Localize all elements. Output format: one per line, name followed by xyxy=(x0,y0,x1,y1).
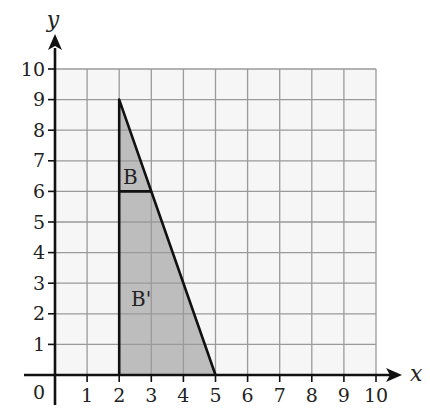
y-tick-label: 1 xyxy=(33,333,45,355)
y-tick-label: 4 xyxy=(33,241,45,263)
y-tick-label: 10 xyxy=(21,58,45,80)
y-tick-label: 2 xyxy=(33,302,45,324)
x-tick-label: 2 xyxy=(113,384,125,406)
x-tick-label: 6 xyxy=(242,384,254,406)
x-axis-label: x xyxy=(410,361,423,386)
origin-label: 0 xyxy=(33,381,45,403)
x-tick-label: 3 xyxy=(145,384,157,406)
y-tick-label: 5 xyxy=(33,211,45,233)
x-tick-label: 10 xyxy=(364,384,388,406)
coordinate-grid-diagram: y x 0 1 2 3 4 5 6 7 8 9 10 1 2 3 4 5 6 7… xyxy=(0,0,430,417)
x-tick-label: 1 xyxy=(81,384,93,406)
y-tick-label: 6 xyxy=(33,180,45,202)
y-tick-labels: 1 2 3 4 5 6 7 8 9 10 xyxy=(21,58,45,355)
x-tick-label: 8 xyxy=(306,384,318,406)
y-tick-label: 9 xyxy=(33,88,45,110)
y-axis-label: y xyxy=(46,7,60,32)
y-axis-arrow-icon xyxy=(48,34,62,50)
y-tick-label: 7 xyxy=(33,149,45,171)
shape-b-prime-label: B' xyxy=(131,287,151,311)
x-tick-label: 7 xyxy=(274,384,286,406)
x-tick-label: 5 xyxy=(209,384,221,406)
y-tick-label: 3 xyxy=(33,272,45,294)
y-tick-label: 8 xyxy=(33,119,45,141)
x-tick-label: 9 xyxy=(338,384,350,406)
shape-b-label: B xyxy=(123,165,138,189)
x-tick-label: 4 xyxy=(177,384,189,406)
x-tick-labels: 1 2 3 4 5 6 7 8 9 10 xyxy=(81,384,388,406)
